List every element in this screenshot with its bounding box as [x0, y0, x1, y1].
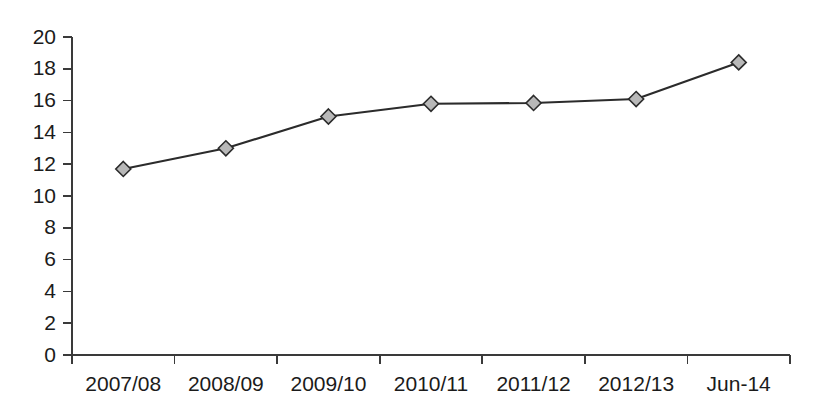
y-tick-label: 14	[33, 120, 57, 143]
data-point-marker	[629, 92, 644, 107]
y-tick-labels: 02468101214161820	[33, 25, 57, 366]
y-tick-label: 8	[44, 215, 56, 238]
x-tick-label: Jun-14	[707, 372, 772, 395]
y-tick-label: 10	[33, 184, 56, 207]
x-tick-label: 2011/12	[496, 372, 570, 395]
x-tick-label: 2008/09	[188, 372, 264, 395]
data-point-marker	[218, 141, 233, 156]
x-tick-label: 2007/08	[85, 372, 161, 395]
x-tick-label: 2010/11	[394, 372, 468, 395]
x-axis	[72, 355, 790, 364]
x-tick-label: 2012/13	[598, 372, 674, 395]
y-tick-label: 6	[44, 247, 56, 270]
y-tick-label: 0	[44, 343, 56, 366]
data-point-marker	[526, 95, 541, 110]
x-tick-label: 2009/10	[290, 372, 366, 395]
series-line	[123, 62, 738, 169]
y-tick-label: 20	[33, 25, 56, 48]
data-point-marker	[321, 109, 336, 124]
data-markers	[116, 55, 746, 177]
y-tick-label: 2	[44, 311, 56, 334]
y-tick-label: 18	[33, 56, 56, 79]
data-series	[123, 62, 738, 169]
y-tick-label: 12	[33, 152, 56, 175]
x-tick-labels: 2007/082008/092009/102010/112011/122012/…	[85, 372, 771, 395]
y-tick-label: 16	[33, 88, 56, 111]
chart-canvas: 02468101214161820 2007/082008/092009/102…	[0, 0, 824, 411]
data-point-marker	[424, 96, 439, 111]
data-point-marker	[116, 161, 131, 176]
line-chart: 02468101214161820 2007/082008/092009/102…	[0, 0, 824, 411]
y-tick-label: 4	[44, 279, 56, 302]
data-point-marker	[731, 55, 746, 70]
y-axis	[63, 37, 72, 355]
